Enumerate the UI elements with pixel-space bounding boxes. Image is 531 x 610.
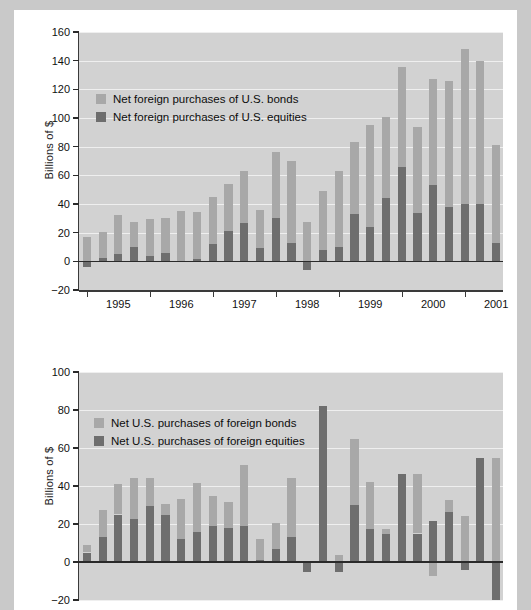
x-axis-tick-label: 1995 (106, 298, 130, 310)
zero-baseline (79, 561, 503, 563)
y-axis-tick-label: 60 (58, 442, 70, 454)
bar-stack (99, 32, 107, 290)
plot-area-bottom: −20020406080100 (78, 372, 503, 600)
bar-segment-bonds (366, 482, 374, 529)
bar-segment-bonds (272, 152, 280, 219)
bar-stack (240, 372, 248, 600)
x-axis-tick-label: 1997 (232, 298, 256, 310)
bar-segment-bonds (240, 465, 248, 526)
bar-stack (224, 32, 232, 290)
bar-stack (130, 32, 138, 290)
y-axis-tick-label: 20 (58, 227, 70, 239)
gridline (79, 32, 503, 33)
bar-segment-bonds (429, 79, 437, 185)
bar-segment-equities (209, 526, 217, 562)
y-axis-tick-label: 20 (58, 518, 70, 530)
y-axis-tick-label: 40 (58, 480, 70, 492)
y-axis-tick-label: 60 (58, 169, 70, 181)
figure-page: Billions of $ −2002040608010012014016019… (14, 10, 517, 610)
bar-segment-equities (413, 534, 421, 563)
chart-us-purchases-of-foreign-securities: Billions of $ −20020406080100 Net U.S. p… (14, 358, 517, 610)
bar-stack (366, 372, 374, 600)
bar-stack (413, 372, 421, 600)
gridline (79, 61, 503, 62)
bar-segment-equities (445, 207, 453, 261)
bar-segment-bonds (193, 483, 201, 531)
bar-segment-equities (492, 562, 500, 600)
bar-segment-equities (335, 247, 343, 261)
bar-segment-bonds (287, 161, 295, 243)
bar-stack (272, 32, 280, 290)
bar-segment-equities (256, 248, 264, 261)
bar-segment-equities (193, 532, 201, 562)
bar-segment-equities (83, 261, 91, 267)
bar-segment-bonds (335, 171, 343, 247)
x-axis-tick-label: 1999 (358, 298, 382, 310)
bar-segment-bonds (272, 523, 280, 549)
y-axis-label-bottom: Billions of $ (43, 447, 55, 506)
y-axis-tick (73, 146, 79, 148)
y-axis-tick (73, 599, 79, 601)
bar-stack (303, 32, 311, 290)
bar-segment-bonds (130, 478, 138, 519)
y-axis-tick (73, 523, 79, 525)
y-axis-tick (73, 117, 79, 119)
bar-stack (398, 32, 406, 290)
bar-stack (492, 32, 500, 290)
bar-stack (476, 32, 484, 290)
gridline (79, 147, 503, 148)
legend-item-foreign-bonds: Net U.S. purchases of foreign bonds (94, 416, 305, 430)
bar-segment-bonds (99, 232, 107, 259)
bar-segment-equities (429, 185, 437, 262)
bar-stack (146, 372, 154, 600)
chart-foreign-purchases-of-us-securities: Billions of $ −2002040608010012014016019… (14, 20, 517, 330)
legend-bottom: Net U.S. purchases of foreign bonds Net … (94, 416, 305, 452)
bar-segment-bonds (382, 117, 390, 198)
legend-swatch-equities-icon (96, 112, 106, 122)
legend-top: Net foreign purchases of U.S. bonds Net … (96, 92, 307, 128)
bar-segment-bonds (146, 478, 154, 506)
y-axis-tick (73, 60, 79, 62)
bar-stack (461, 32, 469, 290)
bar-segment-bonds (224, 184, 232, 231)
gridline (79, 600, 503, 601)
x-axis-tick (402, 290, 404, 297)
bar-segment-bonds (83, 545, 91, 553)
bar-segment-equities (287, 243, 295, 262)
y-axis-tick (73, 447, 79, 449)
bar-stack (114, 372, 122, 600)
plot-area-top: −200204060801001201401601995199619971998… (78, 32, 503, 290)
bar-stack (287, 372, 295, 600)
legend-label-foreign-bonds: Net U.S. purchases of foreign bonds (111, 417, 296, 429)
bar-segment-equities (382, 198, 390, 262)
bar-segment-equities (366, 529, 374, 562)
bar-segment-bonds (476, 61, 484, 204)
bar-segment-bonds (461, 49, 469, 204)
bar-stack (83, 32, 91, 290)
bar-segment-bonds (287, 478, 295, 537)
bar-segment-bonds (492, 458, 500, 563)
bar-segment-bonds (256, 539, 264, 560)
bar-stack (445, 32, 453, 290)
bar-segment-equities (209, 244, 217, 261)
bar-segment-bonds (224, 502, 232, 528)
bar-stack (177, 32, 185, 290)
bar-segment-equities (413, 213, 421, 261)
bar-stack (476, 372, 484, 600)
bar-segment-equities (303, 562, 311, 572)
x-axis-tick-label: 2001 (484, 298, 508, 310)
bar-stack (256, 32, 264, 290)
bar-segment-bonds (130, 222, 138, 247)
bar-segment-bonds (319, 191, 327, 250)
bar-segment-equities (445, 512, 453, 562)
legend-item-equities: Net foreign purchases of U.S. equities (96, 110, 307, 124)
bar-segment-equities (398, 474, 406, 562)
bar-segment-bonds (114, 215, 122, 254)
y-axis-tick-label: 140 (52, 55, 70, 67)
bar-stack (146, 32, 154, 290)
bar-segment-equities (303, 261, 311, 270)
bar-stack (319, 32, 327, 290)
bar-segment-bonds (413, 127, 421, 214)
legend-item-bonds: Net foreign purchases of U.S. bonds (96, 92, 307, 106)
bar-segment-equities (240, 526, 248, 562)
